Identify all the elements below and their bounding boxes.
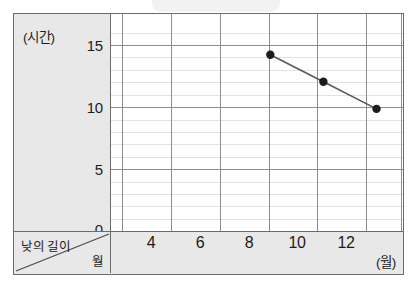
- data-point-marker: [266, 51, 274, 59]
- x-axis-panel: 낮의 길이 월 4 6 8 10 12 (월): [14, 231, 403, 274]
- scan-artifact: [152, 0, 280, 12]
- x-tick-label-10: 10: [277, 235, 317, 251]
- row-header-label: 낮의 길이: [21, 236, 70, 255]
- y-tick-label-15: 15: [87, 38, 103, 53]
- y-tick-label-10: 10: [87, 100, 103, 115]
- line-graph-figure: (시간) 15 10 5 0: [13, 13, 404, 275]
- x-tick-label-8: 8: [229, 235, 269, 251]
- y-tick-label-5: 5: [95, 162, 103, 177]
- column-header-label: 월: [92, 251, 104, 270]
- x-axis-unit-label: (월): [376, 251, 396, 271]
- axis-corner-cell: 낮의 길이 월: [14, 232, 111, 273]
- plot-area: [111, 14, 403, 231]
- x-tick-label-4: 4: [131, 235, 171, 251]
- data-point-marker: [319, 78, 327, 86]
- data-series: [111, 14, 403, 231]
- data-point-marker: [372, 105, 380, 113]
- y-axis-unit-label: (시간): [23, 26, 55, 46]
- y-axis-panel: (시간) 15 10 5 0: [14, 14, 111, 231]
- x-tick-label-6: 6: [180, 235, 220, 251]
- x-tick-label-12: 12: [326, 235, 366, 251]
